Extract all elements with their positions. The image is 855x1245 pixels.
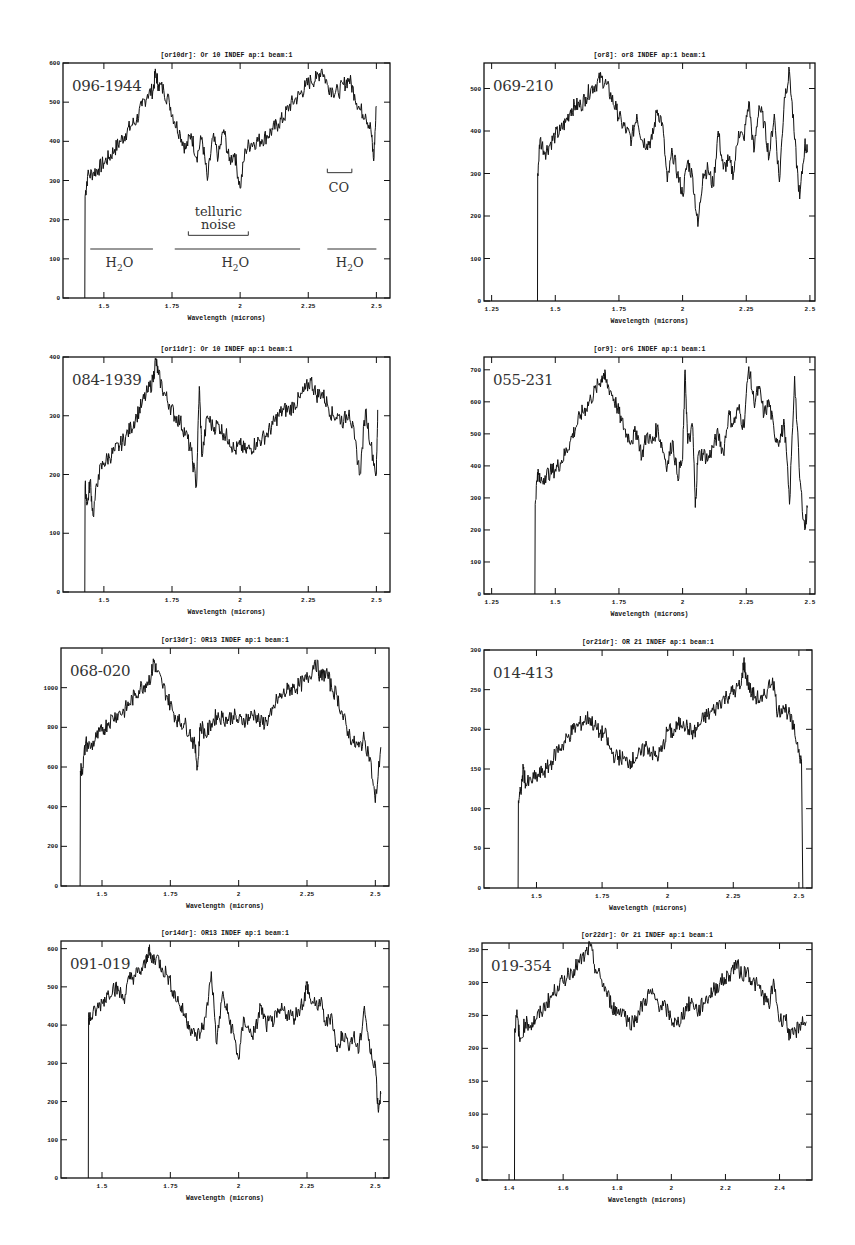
x-tick-label: 1.6 [558, 1185, 569, 1192]
y-tick-label: 250 [468, 1012, 482, 1019]
plot-frame [482, 943, 812, 1180]
spectrum-line [515, 941, 807, 1180]
y-tick-label: 100 [468, 1111, 482, 1118]
y-tick-label: 300 [468, 979, 482, 986]
y-tick-label: 50 [472, 1144, 482, 1151]
y-tick-label: 0 [475, 1177, 482, 1184]
spectrum-plot [0, 0, 855, 1245]
y-tick-label: 200 [468, 1045, 482, 1052]
x-tick-label: 1.8 [612, 1185, 623, 1192]
x-tick-label: 2 [670, 1185, 674, 1192]
y-tick-label: 350 [468, 946, 482, 953]
x-axis-label: Wavelength (microns) [608, 1197, 686, 1204]
object-label: 019-354 [491, 957, 551, 975]
x-tick-label: 2.4 [774, 1185, 785, 1192]
x-tick-label: 1.4 [504, 1185, 515, 1192]
x-tick-label: 2.2 [720, 1185, 731, 1192]
y-tick-label: 150 [468, 1078, 482, 1085]
